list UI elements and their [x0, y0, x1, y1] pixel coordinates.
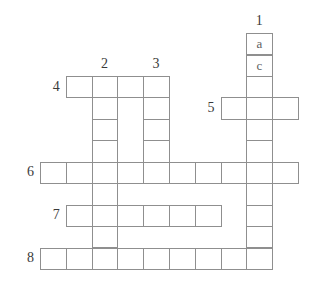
- clue-number-1: 1: [246, 11, 272, 31]
- clue-number-3: 3: [143, 54, 169, 74]
- puzzle-cell[interactable]: [195, 205, 222, 227]
- puzzle-cell[interactable]: [92, 205, 119, 227]
- puzzle-cell[interactable]: [272, 97, 299, 119]
- clue-number-7: 7: [36, 205, 60, 225]
- puzzle-cell[interactable]: [117, 248, 144, 270]
- puzzle-cell[interactable]: [221, 248, 248, 270]
- puzzle-cell[interactable]: [143, 248, 170, 270]
- puzzle-cell[interactable]: [246, 55, 273, 77]
- puzzle-cell[interactable]: [143, 97, 170, 119]
- clue-number-5: 5: [191, 98, 215, 118]
- puzzle-cell[interactable]: [117, 76, 144, 98]
- puzzle-cell[interactable]: [169, 248, 196, 270]
- puzzle-cell[interactable]: [246, 205, 273, 227]
- puzzle-cell[interactable]: [40, 248, 67, 270]
- clue-number-2: 2: [92, 54, 118, 74]
- puzzle-cell[interactable]: [92, 140, 119, 162]
- puzzle-cell[interactable]: [246, 162, 273, 184]
- puzzle-cell[interactable]: [92, 162, 119, 184]
- puzzle-cell[interactable]: [92, 248, 119, 270]
- puzzle-cell[interactable]: [246, 33, 273, 55]
- crossword-grid: ac12345678: [0, 0, 317, 281]
- puzzle-cell[interactable]: [66, 76, 93, 98]
- puzzle-cell[interactable]: [246, 140, 273, 162]
- puzzle-cell[interactable]: [143, 140, 170, 162]
- puzzle-cell[interactable]: [92, 119, 119, 141]
- puzzle-cell[interactable]: [66, 162, 93, 184]
- puzzle-cell[interactable]: [246, 248, 273, 270]
- puzzle-cell[interactable]: [221, 97, 248, 119]
- puzzle-cell[interactable]: [92, 76, 119, 98]
- puzzle-cell[interactable]: [246, 183, 273, 205]
- puzzle-cell[interactable]: [143, 162, 170, 184]
- puzzle-cell[interactable]: [92, 226, 119, 248]
- puzzle-cell[interactable]: [195, 162, 222, 184]
- puzzle-cell[interactable]: [143, 76, 170, 98]
- puzzle-cell[interactable]: [246, 97, 273, 119]
- puzzle-cell[interactable]: [117, 205, 144, 227]
- puzzle-cell[interactable]: [117, 162, 144, 184]
- puzzle-cell[interactable]: [66, 248, 93, 270]
- puzzle-cell[interactable]: [40, 162, 67, 184]
- puzzle-cell[interactable]: [246, 76, 273, 98]
- puzzle-cell[interactable]: [92, 97, 119, 119]
- puzzle-cell[interactable]: [169, 162, 196, 184]
- clue-number-8: 8: [10, 248, 34, 268]
- clue-number-6: 6: [10, 162, 34, 182]
- puzzle-cell[interactable]: [66, 205, 93, 227]
- puzzle-cell[interactable]: [272, 162, 299, 184]
- puzzle-cell[interactable]: [246, 119, 273, 141]
- puzzle-cell[interactable]: [221, 162, 248, 184]
- clue-number-4: 4: [36, 77, 60, 97]
- puzzle-cell[interactable]: [169, 205, 196, 227]
- puzzle-cell[interactable]: [92, 183, 119, 205]
- puzzle-cell[interactable]: [195, 248, 222, 270]
- puzzle-cell[interactable]: [143, 205, 170, 227]
- puzzle-cell[interactable]: [246, 226, 273, 248]
- puzzle-cell[interactable]: [143, 119, 170, 141]
- crossword-puzzle: ac12345678: [0, 0, 317, 281]
